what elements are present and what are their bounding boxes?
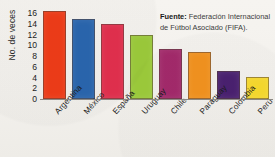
- y-tick-label: 14: [27, 19, 37, 29]
- y-tick-label: 6: [32, 62, 37, 72]
- y-tick-label: 10: [27, 40, 37, 50]
- bar: [188, 52, 211, 99]
- x-axis-label: Perú: [256, 97, 275, 116]
- y-tick-label: 12: [27, 30, 37, 40]
- bar: [130, 35, 153, 99]
- source-note-label: Fuente:: [160, 12, 187, 21]
- y-tick-label: 16: [27, 8, 37, 18]
- y-tick-label: 0: [32, 94, 37, 104]
- source-note: Fuente: Federación Internacional de Fútb…: [160, 11, 272, 34]
- y-tick-label: 8: [32, 51, 37, 61]
- bar-chart: No. de veces 0246810121416 ArgentinaMéxi…: [0, 0, 275, 157]
- y-tick-label: 4: [32, 73, 37, 83]
- y-axis-title: No. de veces: [7, 0, 17, 73]
- x-axis-line: [40, 99, 273, 100]
- y-tick-label: 2: [32, 83, 37, 93]
- bar: [101, 24, 124, 99]
- bar: [43, 11, 66, 99]
